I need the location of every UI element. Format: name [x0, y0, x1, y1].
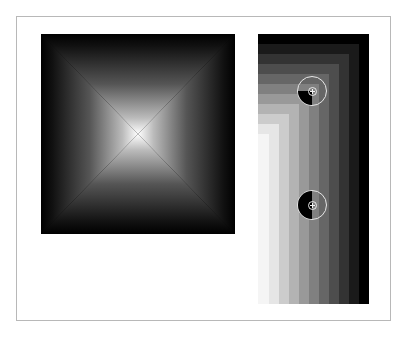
marker-quarter-circle-icon	[297, 76, 327, 106]
crosshair-icon	[310, 203, 315, 208]
marker-half-circle-icon	[297, 190, 327, 220]
gradient-band	[258, 134, 269, 304]
step-gradient-panel	[258, 34, 369, 304]
pyramid-gradient-square	[41, 34, 235, 234]
crosshair-icon	[310, 89, 315, 94]
